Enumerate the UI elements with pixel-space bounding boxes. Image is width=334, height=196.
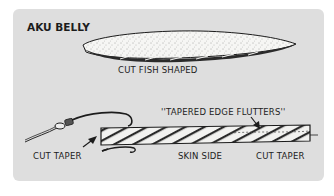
title: AKU BELLY [27, 21, 90, 33]
label-skin-side: SKIN SIDE [178, 151, 222, 161]
label-tapered-edge-flutters: ''TAPERED EDGE FLUTTERS'' [161, 107, 286, 117]
fish-shaped-bait [83, 31, 296, 62]
fishing-line [25, 118, 74, 142]
label-cut-fish-shaped: CUT FISH SHAPED [118, 65, 198, 75]
tapered-strip-bait [101, 125, 318, 145]
label-cut-taper-right: CUT TAPER [256, 151, 305, 161]
label-cut-taper-left: CUT TAPER [33, 151, 82, 161]
